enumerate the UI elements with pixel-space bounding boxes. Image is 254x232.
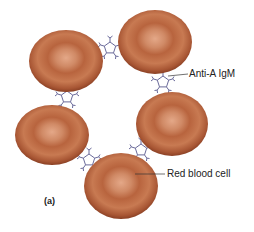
red-blood-cell	[136, 92, 208, 156]
panel-label: (a)	[44, 196, 55, 206]
red-blood-cell	[15, 105, 89, 165]
red-blood-cell	[118, 10, 192, 74]
red-blood-cell	[84, 153, 158, 219]
rbc-label: Red blood cell	[167, 168, 230, 179]
igm-label: Anti-A IgM	[189, 68, 235, 79]
agglutination-diagram	[0, 0, 254, 232]
igm-leader-line	[168, 74, 188, 76]
red-blood-cell	[29, 30, 103, 92]
